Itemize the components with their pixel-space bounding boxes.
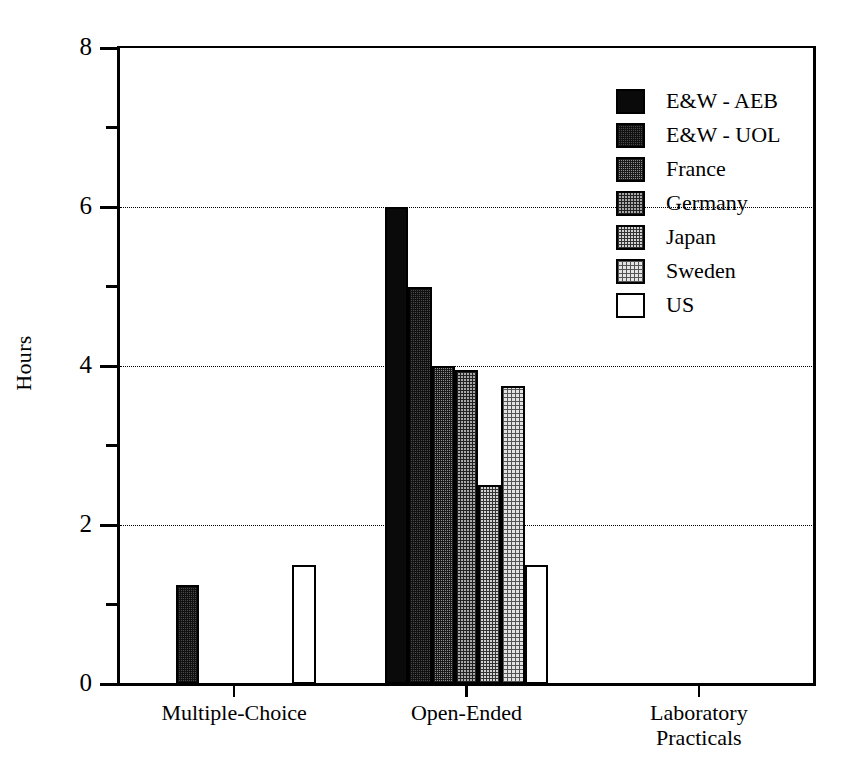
y-tick-0	[100, 683, 119, 686]
legend-swatch-icon-france	[616, 157, 645, 182]
x-category-label-1: Open-Ended	[352, 700, 582, 725]
x-category-line: Laboratory	[584, 700, 814, 725]
bar-us-1	[525, 565, 548, 684]
legend-item-japan[interactable]: Japan	[616, 220, 806, 254]
y-tick-label-8: 8	[58, 34, 92, 59]
legend-label: E&W - AEB	[666, 89, 778, 113]
legend-item-france[interactable]: France	[616, 152, 806, 186]
legend-label: Sweden	[666, 259, 736, 283]
legend-item-uol[interactable]: E&W - UOL	[616, 118, 806, 152]
chart-figure: Hours 02468 Multiple-ChoiceOpen-EndedLab…	[0, 0, 857, 773]
legend-item-germany[interactable]: Germany	[616, 186, 806, 220]
legend-label: Germany	[666, 191, 748, 215]
y-tick-8	[100, 47, 119, 50]
y-tick-label-4: 4	[58, 352, 92, 377]
x-category-line: Practicals	[584, 725, 814, 750]
legend-label: Japan	[666, 225, 716, 249]
y-tick-4	[100, 365, 119, 368]
bar-aeb-1	[385, 207, 408, 684]
legend-swatch-icon-aeb	[616, 89, 645, 114]
x-category-line: Open-Ended	[352, 700, 582, 725]
legend-item-sweden[interactable]: Sweden	[616, 254, 806, 288]
bar-japan-1	[478, 485, 501, 684]
legend-swatch-icon-us	[616, 293, 645, 318]
legend-item-aeb[interactable]: E&W - AEB	[616, 84, 806, 118]
legend-label: E&W - UOL	[666, 123, 780, 147]
x-category-line: Multiple-Choice	[119, 700, 349, 725]
x-tick-2	[698, 684, 701, 697]
bar-germany-1	[455, 370, 478, 684]
x-category-label-2: LaboratoryPracticals	[584, 700, 814, 750]
y-tick-label-2: 2	[58, 511, 92, 536]
legend-label: France	[666, 157, 726, 181]
bar-uol-0	[176, 585, 199, 684]
bar-sweden-1	[501, 386, 524, 684]
bar-uol-1	[408, 287, 431, 685]
y-axis-title: Hours	[11, 303, 37, 423]
legend-item-us[interactable]: US	[616, 288, 806, 322]
y-tick-6	[100, 206, 119, 209]
y-tick-label-0: 0	[58, 670, 92, 695]
legend: E&W - AEBE&W - UOLFranceGermanyJapanSwed…	[616, 84, 806, 322]
bar-france-1	[432, 366, 455, 684]
legend-swatch-icon-uol	[616, 123, 645, 148]
x-tick-0	[233, 684, 236, 697]
legend-swatch-icon-sweden	[616, 259, 645, 284]
x-tick-1	[465, 684, 468, 697]
y-tick-label-6: 6	[58, 193, 92, 218]
y-tick-2	[100, 524, 119, 527]
legend-swatch-icon-germany	[616, 191, 645, 216]
bar-us-0	[292, 565, 315, 684]
x-category-label-0: Multiple-Choice	[119, 700, 349, 725]
legend-swatch-icon-japan	[616, 225, 645, 250]
legend-label: US	[666, 293, 694, 317]
